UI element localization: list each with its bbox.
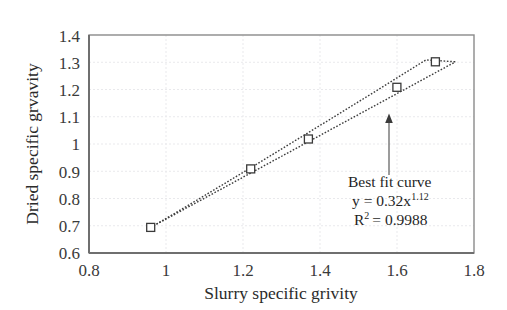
chart-figure: 1.4 1.3 1.2 1.1 1 0.9 0.8 0.7 0.6 0.8 1 … <box>0 0 507 310</box>
r2-symbol: R <box>354 211 365 228</box>
x-tick-label: 1.6 <box>386 261 407 280</box>
x-tick-label: 0.8 <box>78 261 99 280</box>
x-tick-label: 1.4 <box>309 261 331 280</box>
equation-base: y = 0.32x <box>352 192 411 209</box>
x-tick-label: 1.8 <box>463 261 484 280</box>
data-point <box>393 83 401 91</box>
data-point <box>431 58 439 66</box>
x-tick-label: 1 <box>162 261 171 280</box>
y-tick-label: 1 <box>72 135 81 154</box>
x-tick-label: 1.2 <box>232 261 253 280</box>
y-tick-label: 0.8 <box>59 190 80 209</box>
y-tick-label: 0.6 <box>59 244 80 263</box>
chart-canvas: 1.4 1.3 1.2 1.1 1 0.9 0.8 0.7 0.6 0.8 1 … <box>0 0 507 310</box>
equation-exponent: 1.12 <box>411 191 429 202</box>
r2-exponent: 2 <box>364 210 369 221</box>
y-tick-label: 1.1 <box>59 108 80 127</box>
y-tick-label: 1.4 <box>59 27 81 46</box>
x-axis-title: Slurry specific grivity <box>204 283 358 303</box>
y-tick-label: 0.9 <box>59 163 80 182</box>
data-point <box>147 223 155 231</box>
r2-value: = 0.9988 <box>372 211 427 228</box>
y-tick-label: 1.3 <box>59 54 80 73</box>
annotation-line-title: Best fit curve <box>348 173 432 190</box>
y-tick-label: 0.7 <box>59 217 81 236</box>
data-point <box>304 135 312 143</box>
y-axis-title: Dried specific grvavity <box>22 63 42 225</box>
best-fit-annotation: Best fit curve y = 0.32x1.12 R2= 0.9988 <box>348 173 432 228</box>
data-point <box>247 165 255 173</box>
y-tick-label: 1.2 <box>59 81 80 100</box>
